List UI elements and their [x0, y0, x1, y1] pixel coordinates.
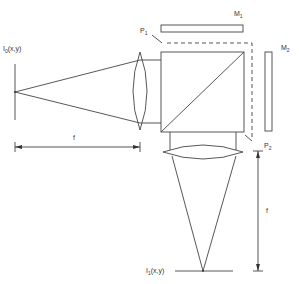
lens-1 — [133, 52, 147, 130]
ray-lower-left — [172, 156, 203, 271]
optical-diagram — [0, 0, 299, 284]
label-input-plane: I0(x,y) — [3, 45, 21, 54]
beam-splitter-diagonal — [161, 52, 244, 132]
mirror-m2 — [265, 52, 272, 131]
ray-lower-left — [15, 92, 140, 123]
label-p1: P1 — [140, 27, 147, 36]
label-p2: P2 — [264, 142, 271, 151]
label-output-plane: I1(x,y) — [146, 267, 164, 276]
lens-2 — [163, 145, 243, 159]
ray-upper-left — [15, 60, 140, 92]
ray-lower-right — [203, 156, 236, 271]
label-focal-horizontal: f — [73, 134, 75, 141]
label-m1: M1 — [234, 10, 243, 19]
mirror-m1 — [161, 25, 243, 32]
label-m2: M2 — [281, 44, 290, 53]
label-focal-vertical: f — [266, 207, 268, 214]
